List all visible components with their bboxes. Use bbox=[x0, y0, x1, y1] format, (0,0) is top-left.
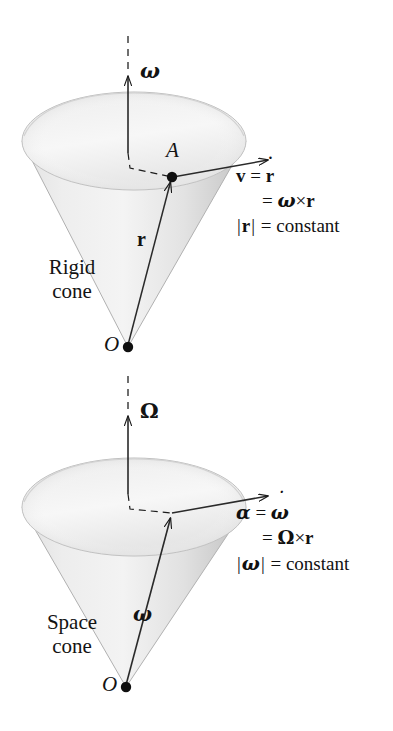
panel-rigid-cone: ω A r O Rigid cone v = ˙r = ω×r |r| = bbox=[0, 0, 393, 366]
cone-caption-space-line1: Space bbox=[47, 610, 97, 634]
abs-bar-right-1: | bbox=[250, 214, 256, 238]
apex-o-label-rigid: O bbox=[104, 333, 119, 355]
constant-word-1: constant bbox=[276, 215, 339, 236]
cone-caption-space-line2: cone bbox=[52, 634, 92, 658]
cone-caption-rigid-line1: Rigid bbox=[49, 255, 96, 279]
equation-rigid-2: = ω×r bbox=[236, 188, 340, 213]
equation-rigid-3: |r| = constant bbox=[236, 214, 340, 238]
dot-accent-1: ˙ bbox=[268, 155, 273, 171]
omega-vector-label-space: ω bbox=[133, 604, 152, 625]
apex-o-dot-rigid bbox=[123, 342, 133, 352]
equals-sign-2: = bbox=[262, 190, 273, 211]
equation-rigid-1: v = ˙r bbox=[236, 164, 340, 188]
omega-dot-symbol: ˙ω bbox=[271, 501, 289, 523]
times-sign-2: × bbox=[294, 527, 305, 548]
times-sign-1: × bbox=[296, 190, 307, 211]
figure-root: ω A r O Rigid cone v = ˙r = ω×r |r| = bbox=[0, 0, 393, 731]
equals-sign-4: = bbox=[255, 502, 266, 523]
equation-space-1: α = ˙ω bbox=[236, 500, 349, 525]
cone-caption-rigid: Rigid cone bbox=[20, 256, 124, 303]
equations-space: α = ˙ω = Ω×r |ω| = constant bbox=[236, 500, 349, 576]
omega-symbol-abs: ω bbox=[242, 552, 260, 574]
equals-sign-6: = bbox=[270, 553, 281, 574]
r-dot-symbol: ˙r bbox=[266, 165, 274, 186]
cone-caption-space: Space cone bbox=[16, 611, 128, 658]
equation-space-3: |ω| = constant bbox=[236, 551, 349, 576]
omega-upper-axis-label-space: Ω bbox=[140, 400, 159, 422]
point-a-label: A bbox=[166, 139, 179, 161]
equals-sign-3: = bbox=[261, 215, 272, 236]
omega-symbol-eq: ω bbox=[277, 189, 295, 211]
equations-rigid: v = ˙r = ω×r |r| = constant bbox=[236, 164, 340, 238]
cone-caption-rigid-line2: cone bbox=[52, 279, 92, 303]
equation-space-2: = Ω×r bbox=[236, 525, 349, 550]
r-symbol-abs: r bbox=[242, 215, 250, 236]
v-symbol: v bbox=[236, 165, 246, 186]
r-vector-label-rigid: r bbox=[137, 229, 146, 250]
alpha-symbol: α bbox=[236, 501, 251, 523]
constant-word-2: constant bbox=[286, 553, 349, 574]
omega-axis-label-rigid: ω bbox=[140, 60, 160, 82]
apex-o-label-space: O bbox=[102, 673, 117, 695]
apex-o-dot-space bbox=[121, 682, 131, 692]
equals-sign-1: = bbox=[250, 165, 261, 186]
panel-space-cone: Ω ω O Space cone α = ˙ω = Ω×r |ω| = cons… bbox=[0, 366, 393, 731]
r-symbol-eq-2: r bbox=[305, 527, 313, 548]
r-symbol-eq: r bbox=[306, 190, 314, 211]
abs-bar-right-2: | bbox=[260, 552, 266, 576]
point-a-dot bbox=[167, 172, 177, 182]
equals-sign-5: = bbox=[262, 527, 273, 548]
dot-accent-2: ˙ bbox=[276, 491, 284, 507]
omega-upper-symbol-eq: Ω bbox=[277, 526, 294, 548]
